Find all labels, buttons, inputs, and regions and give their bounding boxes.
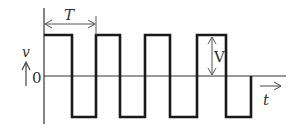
origin-label: 0 <box>32 69 42 87</box>
x-axis-label: t <box>263 91 270 109</box>
period-label: T <box>64 6 75 24</box>
square-wave-diagram: T V v 0 t <box>0 0 297 129</box>
y-axis-label: v <box>22 44 30 60</box>
amplitude-label: V <box>213 48 226 66</box>
